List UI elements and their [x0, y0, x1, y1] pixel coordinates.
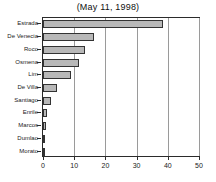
- y-axis-tick: [37, 125, 41, 126]
- bar-de-villa: [43, 84, 57, 92]
- y-axis-tick: [37, 138, 41, 139]
- y-axis-tick: [37, 74, 41, 75]
- x-axis-tick-label: 40: [164, 162, 172, 170]
- y-axis-tick: [37, 112, 41, 113]
- bar-morato: [43, 148, 45, 156]
- bar-enrile: [43, 109, 47, 117]
- x-axis-tick: [168, 157, 169, 160]
- grid-line: [199, 18, 200, 156]
- x-axis-tick-label: 50: [195, 162, 203, 170]
- x-axis-tick: [74, 157, 75, 160]
- bars-container: [43, 18, 199, 156]
- y-axis-tick: [37, 23, 41, 24]
- x-axis: 01020304050: [42, 157, 200, 179]
- x-axis-tick-label: 0: [41, 162, 45, 170]
- bar-row: [43, 33, 199, 41]
- bar-row: [43, 148, 199, 156]
- x-axis-tick: [199, 157, 200, 160]
- x-axis-tick: [105, 157, 106, 160]
- chart-title: (May 11, 1998): [0, 2, 216, 12]
- bar-row: [43, 59, 199, 67]
- y-axis-label-dumlao: Dumlao: [17, 134, 38, 141]
- bar-row: [43, 122, 199, 130]
- y-axis-tick: [37, 100, 41, 101]
- y-axis-tick: [37, 49, 41, 50]
- x-axis-tick-label: 20: [101, 162, 109, 170]
- x-axis-tick-label: 10: [70, 162, 78, 170]
- plot-area: [42, 17, 200, 157]
- y-axis-label-santiago: Santiago: [14, 96, 38, 103]
- y-axis-category-labels: MoratoDumlaoMarcosEnrileSantiagoDe Villa…: [0, 17, 41, 157]
- bar-row: [43, 71, 199, 79]
- y-axis-label-osmena: Osmena: [15, 58, 38, 65]
- y-axis-label-roco: Roco: [24, 45, 38, 52]
- bar-marcos: [43, 122, 46, 130]
- y-axis-label-estrada: Estrada: [17, 20, 38, 27]
- bar-row: [43, 20, 199, 28]
- bar-chart: (May 11, 1998) MoratoDumlaoMarcosEnrileS…: [0, 0, 216, 182]
- bar-lim: [43, 71, 71, 79]
- x-axis-tick: [43, 157, 44, 160]
- y-axis-label-de-villa: De Villa: [17, 84, 38, 91]
- y-axis-tick: [37, 36, 41, 37]
- y-axis-tick: [37, 151, 41, 152]
- y-axis-tick: [37, 87, 41, 88]
- bar-dumlao: [43, 135, 45, 143]
- bar-de-venecia: [43, 33, 94, 41]
- y-axis-label-marcos: Marcos: [18, 122, 38, 129]
- y-axis-label-de-venecia: De Venecia: [7, 33, 38, 40]
- bar-row: [43, 135, 199, 143]
- x-axis-tick-label: 30: [133, 162, 141, 170]
- bar-row: [43, 109, 199, 117]
- bar-row: [43, 97, 199, 105]
- y-axis-tick: [37, 62, 41, 63]
- bar-row: [43, 84, 199, 92]
- bar-roco: [43, 46, 85, 54]
- x-axis-tick: [137, 157, 138, 160]
- bar-estrada: [43, 20, 163, 28]
- bar-row: [43, 46, 199, 54]
- y-axis-label-enrile: Enrile: [23, 109, 38, 116]
- bar-santiago: [43, 97, 51, 105]
- bar-osmena: [43, 59, 79, 67]
- y-axis-label-morato: Morato: [19, 147, 38, 154]
